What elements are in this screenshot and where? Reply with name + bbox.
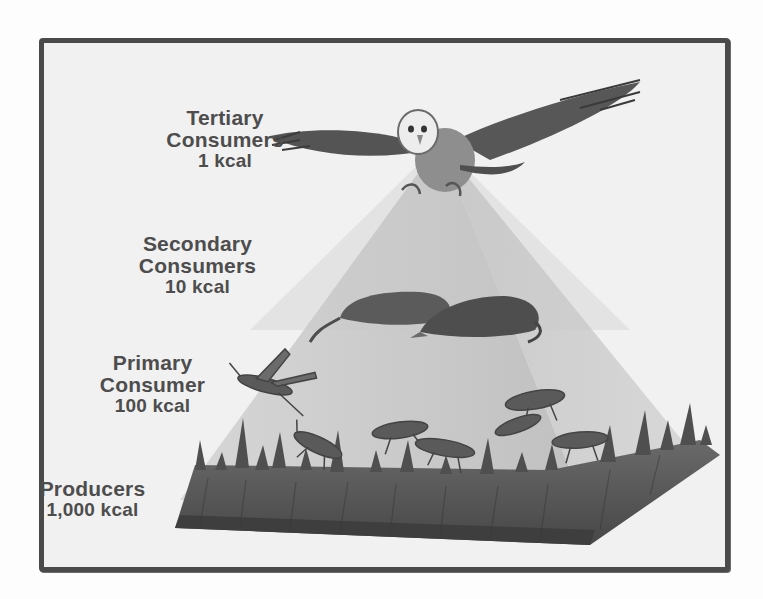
label-producers: Producers 1,000 kcal xyxy=(0,478,185,520)
energy-value: 100 kcal xyxy=(65,396,240,416)
level-name: Tertiary xyxy=(140,107,310,129)
energy-value: 10 kcal xyxy=(110,277,285,297)
label-secondary-consumers: Secondary Consumers 10 kcal xyxy=(110,233,285,297)
owl-tertiary-consumer xyxy=(268,80,640,196)
level-name: Consumers xyxy=(110,255,285,277)
level-name: Consumer xyxy=(65,374,240,396)
level-name: Producers xyxy=(0,478,185,500)
level-name: Secondary xyxy=(110,233,285,255)
level-name: Consumers xyxy=(140,129,310,151)
energy-value: 1 kcal xyxy=(140,151,310,171)
level-name: Primary xyxy=(65,352,240,374)
label-tertiary-consumers: Tertiary Consumers 1 kcal xyxy=(140,107,310,171)
label-primary-consumer: Primary Consumer 100 kcal xyxy=(65,352,240,416)
energy-value: 1,000 kcal xyxy=(0,500,185,520)
